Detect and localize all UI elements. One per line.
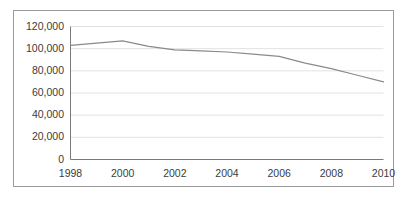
y-axis-tick-label: 120,000: [8, 21, 64, 32]
x-axis-tick-label: 1998: [51, 168, 91, 179]
x-axis-tick-label: 2008: [311, 168, 351, 179]
x-axis-tick-label: 2010: [364, 168, 404, 179]
y-axis-tick-label: 80,000: [8, 65, 64, 76]
chart-figure: 020,00040,00060,00080,000100,000120,000 …: [0, 0, 407, 197]
y-axis-tick-label: 0: [8, 154, 64, 165]
y-axis-tick-label: 100,000: [8, 43, 64, 54]
x-axis-tick-label: 2002: [155, 168, 195, 179]
x-axis-tick-label: 2000: [103, 168, 143, 179]
y-axis-tick-label: 40,000: [8, 109, 64, 120]
x-axis-tick-label: 2006: [259, 168, 299, 179]
y-axis-tick-label: 60,000: [8, 87, 64, 98]
y-axis-tick-label: 20,000: [8, 131, 64, 142]
x-axis-tick-label: 2004: [207, 168, 247, 179]
data-series-line: [71, 41, 384, 82]
